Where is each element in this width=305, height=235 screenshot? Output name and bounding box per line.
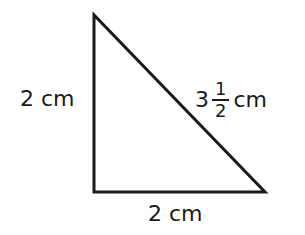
bottom-side-label: 2 cm	[148, 203, 203, 225]
left-side-label: 2 cm	[20, 88, 75, 110]
hypotenuse-whole: 3	[195, 89, 209, 111]
hypotenuse-fraction: 1 2	[212, 80, 229, 120]
fraction-denominator: 2	[215, 101, 226, 120]
fraction-numerator: 1	[212, 80, 229, 101]
hypotenuse-label: 3 1 2 cm	[195, 80, 267, 120]
hypotenuse-unit: cm	[233, 89, 267, 111]
